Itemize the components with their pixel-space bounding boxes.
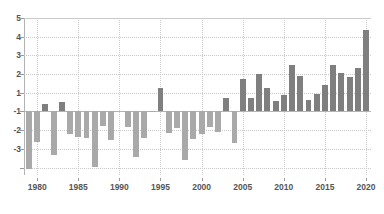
x-axis-tick [243, 178, 244, 181]
y-axis-line [24, 18, 25, 175]
bar [59, 102, 65, 112]
bar [330, 65, 336, 111]
y-axis-tick [20, 74, 24, 75]
bar [322, 85, 328, 112]
y-axis-tick [20, 111, 24, 112]
gridline-horizontal [24, 149, 371, 150]
x-axis-tick [160, 178, 161, 181]
x-axis-labels: 198019851990199520002005201020152020 [24, 178, 371, 192]
bar [363, 30, 369, 111]
bar [240, 79, 246, 112]
bar [190, 111, 196, 138]
x-axis-tick-label: 2000 [192, 183, 211, 192]
x-axis-tick-label: 1980 [28, 183, 47, 192]
x-axis-tick [202, 178, 203, 181]
x-axis-tick-label: 2010 [274, 183, 293, 192]
gridline-horizontal [24, 55, 371, 56]
bar [207, 111, 213, 127]
bar [158, 88, 164, 111]
bar [100, 111, 106, 126]
x-axis-tick-label: 1990 [110, 183, 129, 192]
bar [141, 111, 147, 138]
bar [248, 98, 254, 111]
bar [51, 111, 57, 154]
x-axis-tick [325, 178, 326, 181]
bar [149, 111, 155, 112]
bar [264, 88, 270, 112]
bar [174, 111, 180, 128]
bar [281, 95, 287, 111]
bar [355, 68, 361, 111]
bar [42, 104, 48, 111]
y-axis-tick [20, 55, 24, 56]
gridline-horizontal [24, 168, 371, 169]
bar [297, 76, 303, 112]
bar [232, 111, 238, 143]
y-axis-tick [20, 37, 24, 38]
gridline-horizontal [24, 74, 371, 75]
x-axis-tick-label: 2020 [357, 183, 376, 192]
bar-chart: 54321-1-2-3 1980198519901995200020052010… [0, 0, 384, 214]
y-axis-tick [20, 93, 24, 94]
bar [75, 111, 81, 137]
bar [84, 111, 90, 138]
y-axis-tick [20, 168, 24, 169]
bar [34, 111, 40, 142]
bar [26, 111, 32, 169]
gridline-horizontal [24, 37, 371, 38]
gridline-vertical [202, 18, 203, 175]
bar [338, 73, 344, 112]
gridline-vertical [78, 18, 79, 175]
bar [347, 77, 353, 112]
gridline-vertical [119, 18, 120, 175]
bar [314, 94, 320, 112]
x-axis-tick-label: 1995 [151, 183, 170, 192]
bar [67, 111, 73, 133]
bar [306, 100, 312, 112]
y-axis-labels: 54321-1-2-3 [0, 18, 21, 175]
x-axis-tick-label: 1985 [69, 183, 88, 192]
y-axis-tick [20, 149, 24, 150]
bar [289, 65, 295, 111]
gridline-vertical [37, 18, 38, 175]
bar [125, 111, 131, 127]
plot-area [24, 18, 371, 175]
y-axis-tick [20, 130, 24, 131]
x-axis-tick [78, 178, 79, 181]
x-axis-tick-label: 2015 [315, 183, 334, 192]
bar [215, 111, 221, 132]
plot-top-border [24, 18, 371, 19]
bar [108, 111, 114, 139]
bar [273, 101, 279, 111]
bar [133, 111, 139, 156]
bar [166, 111, 172, 133]
bar [223, 98, 229, 112]
x-axis-tick-label: 2005 [233, 183, 252, 192]
x-axis-tick [37, 178, 38, 181]
bar [92, 111, 98, 166]
x-axis-tick [119, 178, 120, 181]
bar [256, 74, 262, 111]
bar [199, 111, 205, 134]
x-axis-tick [366, 178, 367, 181]
x-axis-tick [284, 178, 285, 181]
bar [182, 111, 188, 160]
